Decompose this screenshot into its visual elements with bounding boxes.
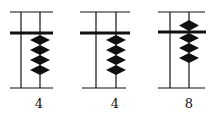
abacus-diagram: 4 4 8 [0, 0, 216, 115]
abacus-column-3: 8 [158, 12, 206, 111]
bead [106, 55, 126, 65]
bead [106, 35, 126, 45]
lower-beads [179, 33, 199, 63]
bead [179, 33, 199, 43]
bead [179, 20, 199, 31]
bead [30, 45, 50, 55]
bead [30, 65, 50, 75]
abacus-column-2: 4 [80, 12, 130, 111]
bead [179, 43, 199, 53]
bead [30, 35, 50, 45]
bead [106, 45, 126, 55]
abacus-column-1: 4 [10, 12, 53, 111]
lower-beads [106, 35, 126, 75]
lower-beads [30, 35, 50, 75]
bead [106, 65, 126, 75]
bead [30, 55, 50, 65]
column-value-label: 4 [35, 96, 43, 111]
upper-beads [179, 20, 199, 31]
column-value-label: 8 [185, 96, 193, 111]
column-value-label: 4 [111, 96, 119, 111]
bead [179, 53, 199, 63]
